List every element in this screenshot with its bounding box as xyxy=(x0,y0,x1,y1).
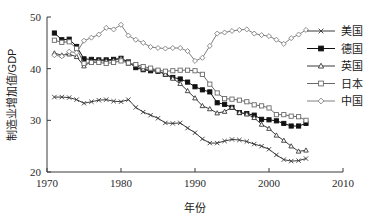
data-point-open-square xyxy=(141,65,145,69)
data-point-open-triangle xyxy=(207,107,212,111)
data-point-open-diamond xyxy=(259,33,264,38)
x-tick-label: 2000 xyxy=(258,177,281,189)
data-point-x-cross xyxy=(156,116,160,120)
data-point-open-square xyxy=(163,69,167,73)
data-point-open-diamond xyxy=(274,37,279,42)
data-point-open-diamond xyxy=(296,32,301,37)
data-point-open-square xyxy=(237,98,241,102)
data-point-open-square xyxy=(134,62,138,66)
data-point-open-diamond xyxy=(207,43,212,48)
data-point-open-square xyxy=(126,61,130,65)
data-point-x-cross xyxy=(141,110,145,114)
data-point-open-diamond xyxy=(178,45,183,50)
data-point-open-square xyxy=(171,69,175,73)
legend-label: 日本 xyxy=(341,77,363,90)
data-point-open-diamond xyxy=(170,45,175,50)
data-point-open-square xyxy=(297,115,301,119)
x-tick-label: 1970 xyxy=(36,177,59,189)
data-point-open-diamond xyxy=(148,44,153,49)
data-point-open-square xyxy=(178,68,182,72)
data-point-open-square xyxy=(52,38,56,42)
data-point-open-square xyxy=(252,103,256,107)
data-point-filled-square xyxy=(193,85,197,89)
data-point-filled-square xyxy=(52,31,56,35)
y-tick-label: 50 xyxy=(30,11,42,23)
data-point-open-diamond xyxy=(252,31,257,36)
data-point-open-diamond xyxy=(200,55,205,60)
data-point-open-diamond xyxy=(81,38,86,43)
data-point-open-square xyxy=(149,66,153,70)
data-point-open-square xyxy=(319,81,324,86)
legend-label: 美国 xyxy=(341,25,363,37)
data-point-open-square xyxy=(260,104,264,108)
legend-label: 德国 xyxy=(341,42,363,55)
data-point-filled-square xyxy=(223,102,227,106)
data-point-open-diamond xyxy=(163,46,168,51)
data-point-open-diamond xyxy=(318,98,324,104)
legend-label: 英国 xyxy=(341,59,363,72)
legend-item-英国[interactable]: 英国 xyxy=(307,59,363,72)
data-point-open-diamond xyxy=(303,27,308,32)
data-point-open-square xyxy=(193,69,197,73)
chart-container: 20304050 19701980199020002010 美国德国英国日本中国… xyxy=(0,0,387,220)
data-point-filled-square xyxy=(260,117,264,121)
data-point-open-square xyxy=(289,114,293,118)
data-point-open-square xyxy=(230,97,234,101)
data-point-x-cross xyxy=(193,131,197,135)
data-point-x-cross xyxy=(148,113,152,117)
data-point-x-cross xyxy=(267,147,271,151)
data-point-open-triangle xyxy=(178,81,183,85)
data-point-filled-square xyxy=(200,88,204,92)
legend-item-美国[interactable]: 美国 xyxy=(307,25,363,37)
x-tick-label: 1990 xyxy=(184,177,207,189)
data-point-open-square xyxy=(304,118,308,122)
data-point-filled-square xyxy=(208,90,212,94)
legend-item-日本[interactable]: 日本 xyxy=(307,77,363,90)
data-point-open-square xyxy=(112,60,116,64)
x-axis-title: 年份 xyxy=(184,201,206,214)
data-point-open-square xyxy=(200,72,204,76)
y-tick-label: 30 xyxy=(30,114,42,126)
legend-label: 中国 xyxy=(341,95,363,107)
data-point-open-diamond xyxy=(141,40,146,45)
data-point-open-diamond xyxy=(222,30,227,35)
data-point-open-square xyxy=(215,91,219,95)
data-point-filled-square xyxy=(297,124,301,128)
data-point-x-cross xyxy=(200,137,204,141)
data-point-open-square xyxy=(282,113,286,117)
data-point-open-diamond xyxy=(111,27,116,32)
data-point-open-square xyxy=(104,61,108,65)
data-point-open-square xyxy=(82,61,86,65)
data-point-x-cross xyxy=(185,126,189,130)
chart-legend: 美国德国英国日本中国 xyxy=(307,25,363,107)
data-point-open-diamond xyxy=(266,34,271,39)
data-point-open-triangle xyxy=(215,111,220,115)
data-point-filled-square xyxy=(289,124,293,128)
data-point-filled-square xyxy=(267,118,271,122)
data-point-open-triangle xyxy=(304,148,309,152)
data-point-open-square xyxy=(186,68,190,72)
y-tick-label: 40 xyxy=(30,63,42,75)
y-axis-title: 制造业增加值/GDP xyxy=(5,49,18,142)
data-point-filled-square xyxy=(282,121,286,125)
data-point-open-square xyxy=(267,106,271,110)
data-point-open-square xyxy=(119,59,123,63)
data-point-open-diamond xyxy=(237,27,242,32)
x-tick-label: 1980 xyxy=(110,177,133,189)
data-point-open-diamond xyxy=(244,27,249,32)
data-point-open-triangle xyxy=(281,138,286,142)
data-point-open-square xyxy=(208,82,212,86)
legend-item-德国[interactable]: 德国 xyxy=(307,42,363,55)
data-point-open-square xyxy=(67,40,71,44)
line-chart: 20304050 19701980199020002010 美国德国英国日本中国… xyxy=(0,0,387,220)
legend-item-中国[interactable]: 中国 xyxy=(307,95,363,107)
x-axis-ticks: 19701980199020002010 xyxy=(36,168,355,189)
data-point-filled-square xyxy=(186,80,190,84)
data-point-open-diamond xyxy=(155,45,160,50)
data-point-x-cross xyxy=(134,105,138,109)
series-line xyxy=(54,25,306,61)
data-point-open-square xyxy=(97,60,101,64)
chart-series-group xyxy=(52,22,309,163)
data-point-open-triangle xyxy=(222,109,227,113)
data-point-open-square xyxy=(89,60,93,64)
